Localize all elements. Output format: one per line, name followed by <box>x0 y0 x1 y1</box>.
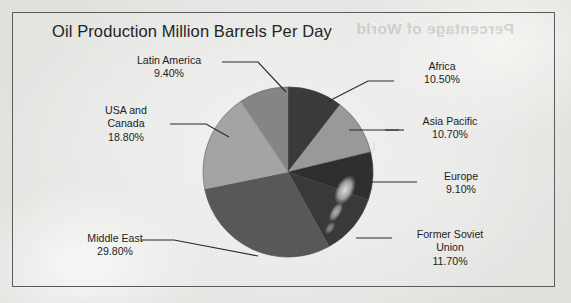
slice-label-asia-pacific: Asia Pacific10.70% <box>399 115 501 142</box>
slice-label-europe: Europe9.10% <box>417 170 505 197</box>
slice-label-latin-america: Latin America9.40% <box>113 54 225 81</box>
slice-label-former-soviet-union: Former SovietUnion11.70% <box>392 228 508 268</box>
slice-label-middle-east: Middle East29.80% <box>62 232 168 259</box>
slice-label-africa: Africa10.50% <box>394 60 490 87</box>
leader-line-africa <box>329 81 394 101</box>
slice-label-usa-canada: USA andCanada18.80% <box>78 104 174 144</box>
pie-slice-group <box>203 87 373 257</box>
